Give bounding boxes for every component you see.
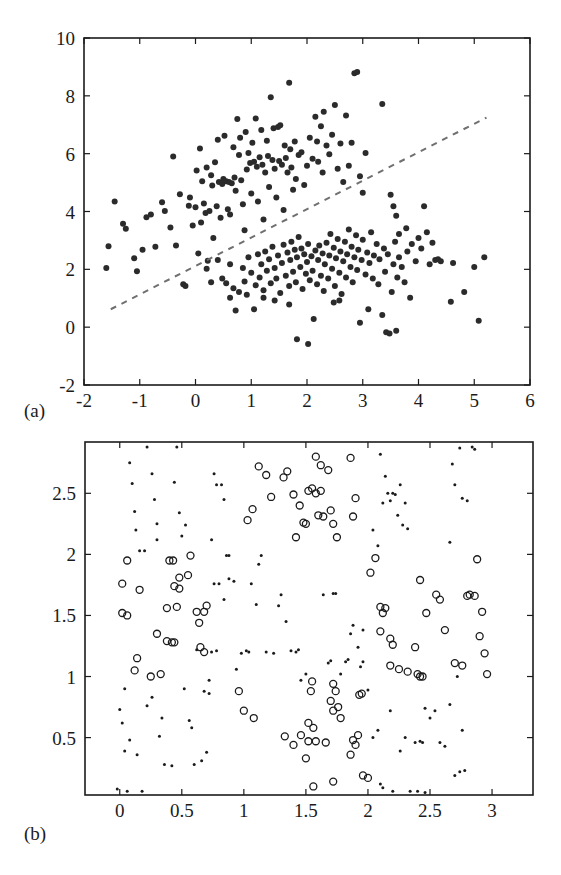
data-point-filled	[354, 267, 360, 273]
data-point-filled	[227, 577, 230, 580]
data-point-filled	[234, 116, 240, 122]
data-point-filled	[336, 270, 342, 276]
data-point-filled	[300, 286, 306, 292]
data-point-filled	[242, 227, 248, 233]
data-point-filled	[389, 499, 392, 502]
data-point-filled	[140, 247, 146, 253]
data-point-filled	[218, 582, 221, 585]
data-point-filled	[133, 510, 136, 513]
data-point-filled	[448, 299, 454, 305]
data-point-open-circle	[327, 697, 334, 704]
data-point-filled	[339, 291, 345, 297]
data-point-open-circle	[330, 778, 337, 785]
data-point-filled	[210, 651, 213, 654]
data-point-filled	[370, 276, 376, 282]
data-point-filled	[151, 696, 154, 699]
data-point-open-circle	[479, 608, 486, 615]
data-point-open-circle	[350, 513, 357, 520]
data-point-filled	[304, 163, 310, 169]
data-point-open-circle	[322, 739, 329, 746]
data-point-open-circle	[153, 630, 160, 637]
data-point-filled	[429, 240, 435, 246]
data-point-open-circle	[307, 688, 314, 695]
data-point-filled	[215, 649, 218, 652]
data-point-filled	[198, 219, 204, 225]
data-point-open-circle	[284, 468, 291, 475]
data-point-filled	[163, 763, 166, 766]
data-point-filled	[427, 261, 433, 267]
data-point-filled	[421, 741, 424, 744]
data-point-filled	[213, 582, 216, 585]
data-point-filled	[352, 624, 355, 627]
x-tick-label: 0	[191, 390, 201, 411]
data-point-open-circle	[466, 591, 473, 598]
data-point-filled	[184, 524, 187, 527]
data-point-filled	[332, 283, 338, 289]
data-point-filled	[261, 287, 267, 293]
data-point-filled	[337, 141, 343, 147]
data-point-open-circle	[302, 755, 309, 762]
x-tick-label: 0	[115, 800, 125, 821]
data-point-open-circle	[147, 673, 154, 680]
data-point-filled	[303, 271, 309, 277]
data-point-filled	[141, 790, 144, 793]
figure-container: -2-10123456-20246810 (a) 00.511.522.530.…	[0, 0, 561, 875]
data-point-filled	[396, 231, 402, 237]
data-point-filled	[106, 243, 112, 249]
data-point-filled	[366, 260, 372, 266]
data-point-filled	[389, 709, 392, 712]
data-point-filled	[357, 646, 360, 649]
data-point-open-circle	[312, 738, 319, 745]
x-tick-label: 4	[414, 390, 424, 411]
data-point-filled	[349, 140, 355, 146]
data-point-filled	[299, 679, 302, 682]
data-point-filled	[320, 250, 326, 256]
data-point-filled	[374, 241, 380, 247]
data-point-filled	[324, 240, 330, 246]
data-point-filled	[368, 229, 374, 235]
data-point-filled	[418, 246, 424, 252]
panel-b-scatter-two-marker-types: 00.511.522.530.511.522.5	[0, 430, 561, 875]
data-point-filled	[255, 198, 261, 204]
data-point-filled	[361, 660, 364, 663]
data-point-filled	[314, 281, 320, 287]
data-point-filled	[134, 268, 140, 274]
data-point-filled	[414, 741, 417, 744]
data-point-filled	[292, 139, 298, 145]
data-point-filled	[322, 261, 328, 267]
data-point-filled	[227, 295, 233, 301]
data-point-filled	[371, 252, 377, 258]
data-point-filled	[204, 266, 210, 272]
data-point-filled	[123, 687, 126, 690]
data-point-filled	[222, 498, 225, 501]
data-point-filled	[230, 144, 236, 150]
data-point-filled	[236, 289, 242, 295]
data-point-filled	[456, 675, 459, 678]
data-point-filled	[343, 112, 349, 118]
data-point-filled	[363, 150, 369, 156]
data-point-filled	[409, 790, 412, 793]
data-point-filled	[285, 620, 288, 623]
data-point-open-circle	[347, 454, 354, 461]
data-point-filled	[304, 259, 310, 265]
data-point-filled	[461, 729, 464, 732]
data-point-filled	[188, 719, 191, 722]
data-point-filled	[193, 204, 199, 210]
data-point-filled	[355, 247, 361, 253]
data-point-open-circle	[131, 667, 138, 674]
data-point-open-circle	[187, 552, 194, 559]
data-point-filled	[152, 244, 158, 250]
data-point-filled	[128, 739, 131, 742]
data-point-filled	[416, 235, 422, 241]
x-tick-label: 5	[470, 390, 480, 411]
data-point-filled	[131, 482, 134, 485]
data-point-filled	[424, 707, 427, 710]
data-point-filled	[266, 256, 272, 262]
data-point-open-circle	[290, 491, 297, 498]
data-point-filled	[116, 787, 119, 790]
data-point-filled	[476, 318, 482, 324]
data-point-filled	[391, 790, 394, 793]
data-point-filled	[394, 274, 400, 280]
data-point-open-circle	[315, 512, 322, 519]
data-point-filled	[329, 266, 335, 272]
